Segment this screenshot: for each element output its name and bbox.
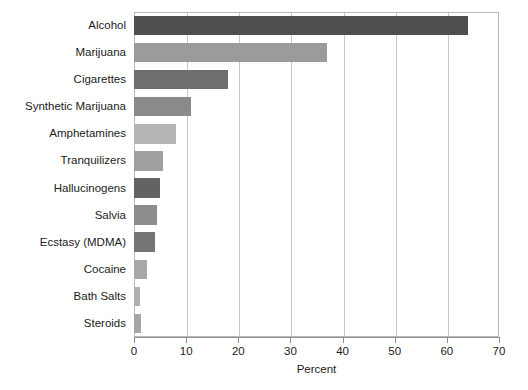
x-tick-label: 60: [427, 345, 467, 357]
bar-row: [134, 93, 499, 120]
category-label: Marijuana: [0, 39, 130, 66]
bar-row: [134, 147, 499, 174]
bar-ecstasy-mdma: [134, 232, 155, 251]
x-tick-50: [395, 337, 396, 343]
bar-row: [134, 229, 499, 256]
x-tick-60: [447, 337, 448, 343]
category-label: Cigarettes: [0, 66, 130, 93]
category-label: Steroids: [0, 310, 130, 337]
bar-row: [134, 39, 499, 66]
category-axis-labels: AlcoholMarijuanaCigarettesSynthetic Mari…: [0, 12, 130, 337]
bar-row: [134, 120, 499, 147]
x-tick-label: 50: [375, 345, 415, 357]
category-label: Hallucinogens: [0, 175, 130, 202]
bar-chart: AlcoholMarijuanaCigarettesSynthetic Mari…: [0, 0, 528, 390]
x-tick-label: 70: [479, 345, 519, 357]
bar-row: [134, 12, 499, 39]
x-tick-label: 40: [323, 345, 363, 357]
bar-steroids: [134, 314, 141, 333]
category-label: Tranquilizers: [0, 147, 130, 174]
x-axis-line: [134, 337, 499, 338]
category-label: Bath Salts: [0, 283, 130, 310]
bars-layer: [134, 12, 499, 337]
x-tick-20: [238, 337, 239, 343]
bar-alcohol: [134, 16, 468, 35]
category-label: Alcohol: [0, 12, 130, 39]
bar-row: [134, 256, 499, 283]
x-tick-40: [343, 337, 344, 343]
bar-cigarettes: [134, 70, 228, 89]
x-tick-30: [290, 337, 291, 343]
x-tick-0: [134, 337, 135, 343]
x-tick-label: 10: [166, 345, 206, 357]
bar-salvia: [134, 205, 157, 224]
bar-row: [134, 202, 499, 229]
bar-row: [134, 66, 499, 93]
category-label: Amphetamines: [0, 120, 130, 147]
bar-cocaine: [134, 260, 147, 279]
x-tick-10: [186, 337, 187, 343]
category-label: Salvia: [0, 202, 130, 229]
x-tick-70: [499, 337, 500, 343]
bar-row: [134, 175, 499, 202]
category-label: Cocaine: [0, 256, 130, 283]
x-tick-label: 30: [270, 345, 310, 357]
bar-row: [134, 283, 499, 310]
x-tick-label: 0: [114, 345, 154, 357]
bar-synthetic-marijuana: [134, 97, 191, 116]
x-axis-title: Percent: [134, 363, 499, 375]
bar-hallucinogens: [134, 178, 160, 197]
bar-amphetamines: [134, 124, 176, 143]
x-tick-label: 20: [218, 345, 258, 357]
bar-bath-salts: [134, 287, 140, 306]
category-label: Ecstasy (MDMA): [0, 229, 130, 256]
bar-tranquilizers: [134, 151, 163, 170]
bar-row: [134, 310, 499, 337]
category-label: Synthetic Marijuana: [0, 93, 130, 120]
bar-marijuana: [134, 43, 327, 62]
